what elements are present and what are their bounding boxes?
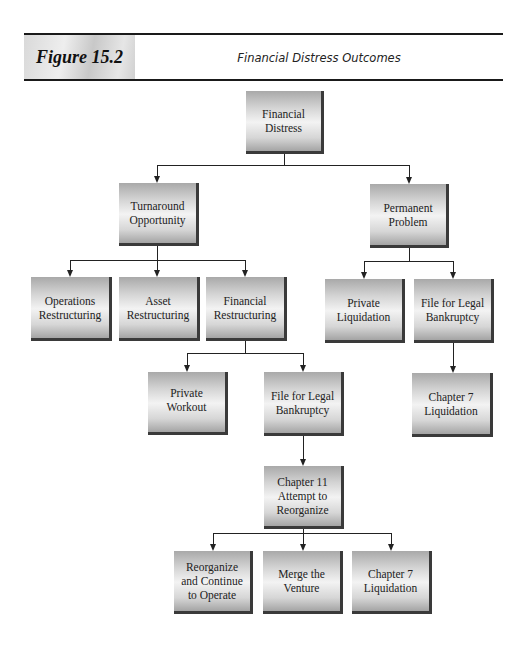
connector [303, 435, 304, 459]
connector [70, 260, 71, 270]
connector [409, 165, 410, 177]
node-reorganize-continue: Reorganize and Continue to Operate [174, 551, 253, 614]
arrow-icon [242, 270, 248, 277]
connector [70, 260, 246, 261]
connector [364, 261, 454, 262]
node-financial-restructuring: Financial Restructuring [206, 277, 287, 341]
connector [213, 533, 214, 544]
node-file-legal-bankruptcy-mid: File for Legal Bankruptcy [264, 372, 344, 436]
arrow-icon [450, 272, 456, 279]
figure-title: Financial Distress Outcomes [135, 35, 503, 80]
connector [453, 342, 454, 366]
connector [157, 260, 158, 270]
connector [303, 533, 304, 544]
arrow-icon [154, 176, 160, 183]
figure-label: Figure 15.2 [24, 35, 135, 80]
connector [157, 165, 158, 176]
connector [453, 261, 454, 272]
node-operations-restructuring: Operations Restructuring [31, 277, 112, 341]
connector [245, 340, 246, 353]
node-private-liquidation: Private Liquidation [325, 279, 405, 343]
arrow-icon [450, 366, 456, 373]
node-asset-restructuring: Asset Restructuring [119, 277, 200, 341]
arrow-icon [406, 177, 412, 184]
node-turnaround-opportunity: Turnaround Opportunity [119, 183, 199, 246]
header-bottom-rule [24, 79, 503, 81]
connector [391, 533, 392, 544]
node-chapter7-liquidation-right: Chapter 7 Liquidation [412, 373, 493, 437]
connector [157, 245, 158, 260]
connector [157, 165, 410, 166]
node-private-workout: Private Workout [148, 372, 228, 435]
arrow-icon [300, 365, 306, 372]
connector [187, 353, 304, 354]
arrow-icon [210, 544, 216, 551]
arrow-icon [300, 544, 306, 551]
connector [364, 261, 365, 272]
arrow-icon [184, 365, 190, 372]
connector [303, 353, 304, 365]
node-chapter11-reorganize: Chapter 11 Attempt to Reorganize [264, 466, 344, 529]
arrow-icon [300, 459, 306, 466]
node-chapter7-liquidation-bottom: Chapter 7 Liquidation [352, 551, 432, 614]
node-financial-distress: Financial Distress [246, 91, 324, 154]
arrow-icon [154, 270, 160, 277]
connector [187, 353, 188, 365]
arrow-icon [388, 544, 394, 551]
connector [284, 153, 285, 165]
arrow-icon [67, 270, 73, 277]
node-permanent-problem: Permanent Problem [370, 184, 449, 248]
connector [245, 260, 246, 270]
connector [409, 247, 410, 261]
arrow-icon [361, 272, 367, 279]
node-file-legal-bankruptcy-right: File for Legal Bankruptcy [414, 279, 494, 343]
node-merge-venture: Merge the Venture [263, 551, 343, 614]
